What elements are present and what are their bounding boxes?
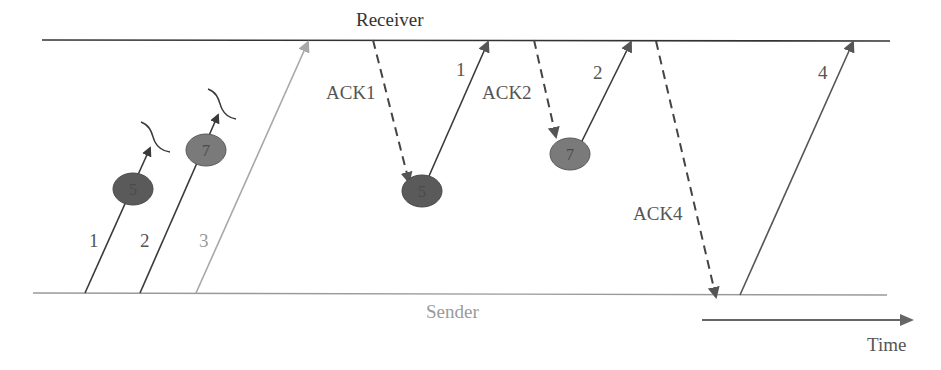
packet-label: 4 [818,62,828,83]
ack-label: ACK2 [482,82,532,103]
ack-1: ACK1 [326,40,409,182]
receiver-label: Receiver [356,9,424,30]
node-5-retransmit: 5 [402,175,442,207]
packet-3: 3 [196,42,308,293]
ack-label: ACK4 [633,203,683,224]
retransmit-1: 1 [429,42,488,176]
sender-label: Sender [426,301,479,322]
node-7: 7 [186,134,226,166]
ack-4: ACK4 [633,41,716,297]
loss-squiggle-icon [141,122,170,152]
packet-timing-diagram: Receiver Sender 1 2 3 5 7 ACK1 5 1 [0,0,941,370]
time-label: Time [867,334,906,355]
packet-label: 2 [140,230,150,251]
packet-label: 2 [593,62,603,83]
ack-2: ACK2 [482,40,556,137]
retransmit-2: 2 [582,42,631,141]
ack-label: ACK1 [326,82,376,103]
receiver-timeline [42,40,890,41]
svg-text:5: 5 [418,183,426,200]
node-7-retransmit: 7 [550,138,590,170]
time-axis: Time [702,320,912,355]
packet-label: 1 [456,59,466,80]
packet-1-lost: 1 [85,122,170,293]
sender-timeline [33,293,887,295]
retransmit-4: 4 [740,42,853,295]
packet-label: 3 [199,230,209,251]
svg-text:5: 5 [129,181,137,198]
svg-text:7: 7 [202,142,210,159]
packet-2-lost: 2 [140,89,236,293]
packet-label: 1 [89,230,99,251]
svg-text:7: 7 [566,146,574,163]
loss-squiggle-icon [208,89,236,119]
node-5: 5 [113,173,153,205]
